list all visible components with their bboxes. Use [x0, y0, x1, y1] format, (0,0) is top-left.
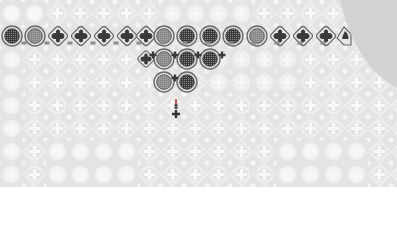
- circle-piece-dark[interactable]: [176, 71, 198, 93]
- link-dot-icon: [250, 32, 258, 40]
- link-dot-icon: [43, 32, 51, 40]
- link-dot-icon: [158, 32, 166, 40]
- link-dot-icon: [135, 32, 143, 40]
- link-dot-icon: [20, 32, 28, 40]
- cross-connector-icon: [149, 44, 157, 52]
- link-dot-icon: [66, 32, 74, 40]
- cross-connector-icon: [171, 67, 179, 75]
- cross-connector-icon: [171, 44, 179, 52]
- link-dot-icon: [181, 32, 189, 40]
- link-dot-icon: [204, 32, 212, 40]
- link-dot-icon: [89, 32, 97, 40]
- cross-connector-icon: [218, 44, 226, 52]
- drop-cursor-icon: [171, 99, 181, 123]
- link-dot-icon: [273, 32, 281, 40]
- link-dot-icon: [319, 32, 327, 40]
- link-dot-icon: [227, 32, 235, 40]
- partial-diamond-piece[interactable]: [333, 25, 355, 47]
- link-dot-icon: [296, 32, 304, 40]
- game-board[interactable]: [0, 0, 397, 187]
- link-dot-icon: [112, 32, 120, 40]
- cross-connector-icon: [194, 44, 202, 52]
- empty-lower-area: [0, 187, 397, 232]
